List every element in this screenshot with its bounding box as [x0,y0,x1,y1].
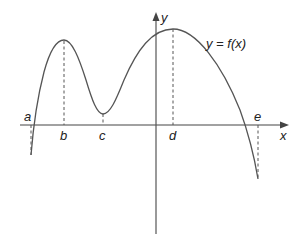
label-b: b [60,128,67,143]
function-label: y = f(x) [205,36,246,51]
curve-f [31,29,258,179]
label-a: a [24,109,31,124]
label-d: d [169,128,177,143]
y-axis-arrow-icon [153,12,160,21]
function-graph: a b c d e x y y = f(x) [0,0,303,252]
label-e: e [254,109,261,124]
x-axis-label: x [279,128,287,143]
y-axis-label: y [160,10,169,25]
label-c: c [99,128,106,143]
